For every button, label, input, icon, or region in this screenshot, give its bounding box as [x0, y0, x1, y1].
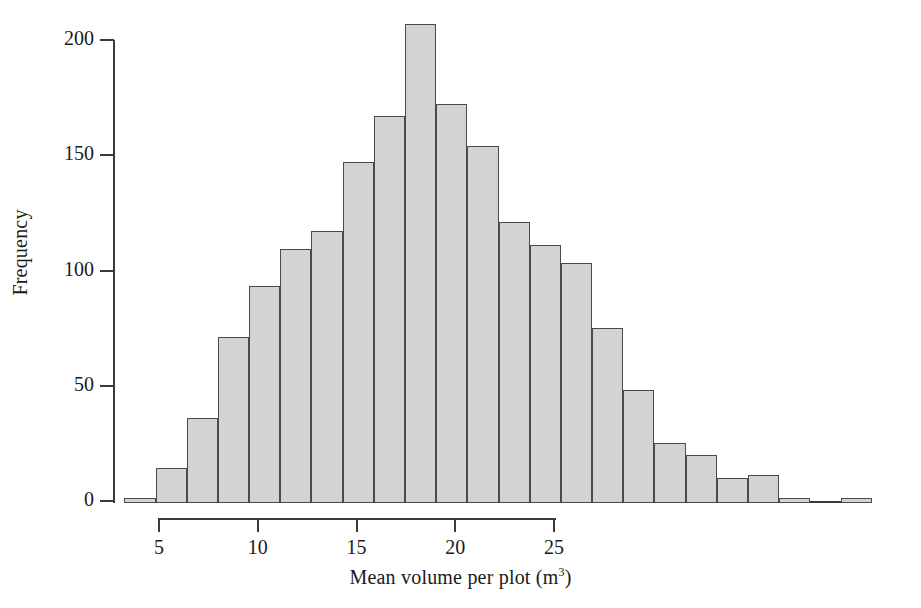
x-axis-tick-mark [158, 518, 160, 532]
x-axis-spine [159, 518, 556, 520]
x-axis-tick-mark [356, 518, 358, 532]
histogram-bar [156, 468, 187, 503]
x-axis-tick-mark [257, 518, 259, 532]
x-axis-tick-label: 25 [544, 536, 564, 559]
x-axis-tick-label: 15 [347, 536, 367, 559]
histogram-bar [623, 390, 654, 503]
histogram-bar [436, 104, 467, 503]
histogram-bar [467, 146, 498, 503]
histogram-bar [124, 498, 155, 503]
histogram-bar [686, 455, 717, 503]
histogram-bar [249, 286, 280, 503]
histogram-bar [187, 418, 218, 503]
x-axis-title-text: Mean volume per plot (m [349, 566, 558, 588]
x-axis-title-close: ) [565, 566, 572, 588]
histogram-bar [530, 245, 561, 503]
histogram-bar [748, 475, 779, 503]
x-axis-tick-label: 20 [445, 536, 465, 559]
x-axis-tick-label: 10 [248, 536, 268, 559]
histogram-bar [499, 222, 530, 503]
histogram-bar [654, 443, 685, 503]
histogram-bar [311, 231, 342, 503]
histogram-bar [343, 162, 374, 503]
plot-area [0, 0, 921, 520]
histogram-bar [717, 478, 748, 503]
histogram-bar [374, 116, 405, 503]
histogram-bar [218, 337, 249, 503]
histogram-bar [841, 498, 872, 503]
x-axis-tick-label: 5 [154, 536, 164, 559]
histogram-bar [592, 328, 623, 503]
x-axis-tick-mark [454, 518, 456, 532]
histogram-bar [779, 498, 810, 503]
x-axis-title: Mean volume per plot (m3) [0, 566, 921, 589]
histogram-bar [561, 263, 592, 503]
histogram-bar [405, 24, 436, 503]
x-axis: 510152025 [0, 518, 921, 558]
histogram-bar [280, 249, 311, 503]
x-axis-tick-mark [553, 518, 555, 532]
histogram-figure: Frequency 050100150200 510152025 Mean vo… [0, 0, 921, 608]
